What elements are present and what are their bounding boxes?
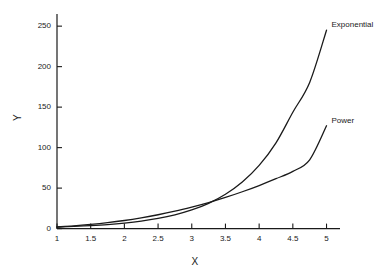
x-axis-title: X [175, 256, 215, 267]
x-tick-label: 2 [112, 234, 136, 243]
series-line-power [57, 126, 327, 227]
x-tick-label: 1 [45, 234, 69, 243]
series-line-exponential [57, 30, 327, 227]
chart-axes [57, 14, 340, 229]
chart-figure: Y X 050100150200250 11.522.533.544.55 Ex… [0, 0, 389, 277]
x-tick-label: 5 [315, 234, 339, 243]
x-tick-label: 1.5 [79, 234, 103, 243]
y-tick-label: 250 [21, 21, 51, 30]
series-label-power: Power [332, 116, 355, 125]
x-tick-label: 4 [247, 234, 271, 243]
y-tick-label: 0 [21, 224, 51, 233]
chart-series-group [57, 30, 327, 227]
y-tick-label: 100 [21, 143, 51, 152]
y-tick-label: 200 [21, 62, 51, 71]
x-tick-label: 4.5 [281, 234, 305, 243]
x-tick-label: 2.5 [146, 234, 170, 243]
series-label-exponential: Exponential [332, 20, 374, 29]
y-axis-ticks [57, 26, 62, 228]
y-tick-label: 50 [21, 183, 51, 192]
y-tick-label: 150 [21, 102, 51, 111]
x-tick-label: 3.5 [213, 234, 237, 243]
x-tick-label: 3 [180, 234, 204, 243]
